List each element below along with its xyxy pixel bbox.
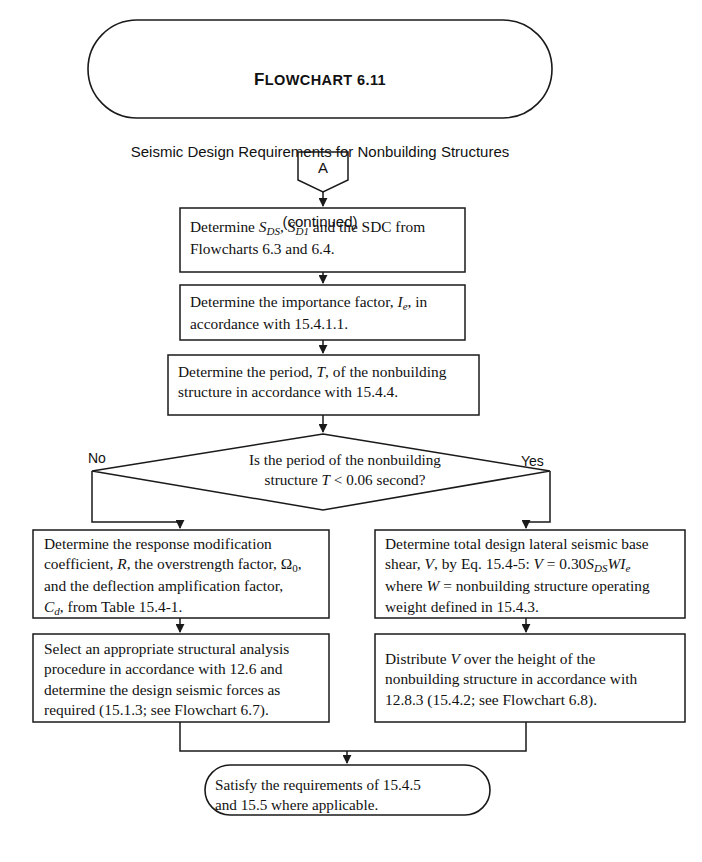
right1-equation-coefficient: = 0.30 — [543, 555, 586, 572]
box1-line2: Flowcharts 6.3 and 6.4. — [190, 240, 334, 257]
box-base-shear-text: Determine total design lateral seismic b… — [385, 534, 679, 617]
left1-line1: Determine the response modification — [44, 535, 272, 552]
box-determine-sds-text: Determine SDS, SD1 and the SDC fromFlowc… — [190, 217, 460, 259]
symbol-s2-subscript: D1 — [295, 225, 309, 237]
decision-line2-tail: < 0.06 second? — [330, 471, 425, 488]
symbol-v: V — [425, 555, 434, 572]
symbol-sds: SDS — [259, 218, 280, 235]
symbol-sd1: SD1 — [288, 218, 309, 235]
edge-yes-branch — [526, 471, 550, 528]
symbol-cd: Cd — [44, 598, 60, 615]
left2-line1: Select an appropriate structural analysi… — [44, 640, 289, 657]
box-importance-factor-text: Determine the importance factor, Ie, ina… — [190, 292, 460, 334]
box-determine-period-text: Determine the period, T, of the nonbuild… — [178, 362, 474, 403]
right1-line3-tail: = nonbuilding structure operating — [439, 577, 649, 594]
edge-left2-merge — [180, 722, 347, 751]
branch-label-no: No — [88, 449, 106, 468]
decision-line2-lead: structure — [265, 471, 322, 488]
flowchart-title-number: 6.11 — [357, 72, 386, 88]
symbol-c: C — [44, 598, 54, 615]
connector-a-label: A — [298, 158, 348, 178]
right2-line3: 12.8.3 (15.4.2; see Flowchart 6.8). — [385, 691, 597, 708]
left1-line2-mid: , the overstrength factor, — [127, 555, 281, 572]
symbol-s: S — [259, 218, 267, 235]
symbol-w: W — [426, 577, 439, 594]
left2-line3: determine the design seismic forces as — [44, 681, 280, 698]
box1-lead: Determine — [190, 218, 259, 235]
flowchart-title-word: LOWCHART — [265, 72, 353, 88]
box3-line2: structure in accordance with 15.4.4. — [178, 383, 398, 400]
box1-tail: and the SDC from — [309, 218, 425, 235]
decision-line1: Is the period of the nonbuilding — [249, 451, 441, 468]
flowchart-page: FLOWCHART 6.11 Seismic Design Requiremen… — [0, 0, 702, 862]
edge-right2-merge — [347, 722, 526, 751]
left1-line2-tail: , — [298, 555, 302, 572]
right2-line1-tail: over the height of the — [460, 650, 595, 667]
box-distribute-v-text: Distribute V over the height of thenonbu… — [385, 649, 679, 710]
symbol-wi: WI — [608, 555, 626, 572]
right1-line3-lead: where — [385, 577, 426, 594]
left1-line2-lead: coefficient, — [44, 555, 117, 572]
left1-line4: , from Table 15.4-1. — [60, 598, 183, 615]
branch-label-yes: Yes — [521, 452, 544, 471]
end-terminator-text: Satisfy the requirements of 15.4.5and 15… — [215, 775, 483, 815]
symbol-r: R — [117, 555, 126, 572]
flowchart-title-initial: F — [254, 70, 265, 89]
end-line2: and 15.5 where applicable. — [215, 796, 378, 813]
symbol-s-subscript: DS — [267, 225, 281, 237]
right1-line2-lead: shear, — [385, 555, 425, 572]
box3-lead: Determine the period, — [178, 363, 316, 380]
symbol-s-eq-subscript: DS — [594, 563, 608, 575]
symbol-t-decision: T — [322, 471, 330, 488]
symbol-wie: WIe — [608, 555, 631, 572]
decision-period-text: Is the period of the nonbuildingstructur… — [200, 450, 490, 490]
right1-line4: weight defined in 15.4.3. — [385, 598, 539, 615]
box2-tail: , in — [408, 293, 428, 310]
symbol-v-equation: V — [534, 555, 543, 572]
symbol-sds-equation: SDS — [586, 555, 607, 572]
symbol-ie: Ie — [398, 293, 408, 310]
right1-line2-mid: , by Eq. 15.4-5: — [434, 555, 534, 572]
box-response-modification-text: Determine the response modificationcoeff… — [44, 534, 322, 619]
symbol-wi-subscript: e — [626, 563, 631, 575]
box2-lead: Determine the importance factor, — [190, 293, 398, 310]
right2-line1-lead: Distribute — [385, 650, 450, 667]
symbol-omega0: Ω0 — [281, 555, 298, 572]
end-line1: Satisfy the requirements of 15.4.5 — [215, 776, 421, 793]
box2-line2: accordance with 15.4.1.1. — [190, 315, 348, 332]
symbol-s-eq: S — [586, 555, 594, 572]
symbol-omega: Ω — [281, 555, 292, 572]
right2-line2: nonbuilding structure in accordance with — [385, 670, 637, 687]
left2-line4: required (15.1.3; see Flowchart 6.7). — [44, 701, 269, 718]
box-select-procedure-text: Select an appropriate structural analysi… — [44, 639, 322, 721]
symbol-t: T — [316, 363, 325, 380]
left2-line2: procedure in accordance with 12.6 and — [44, 660, 282, 677]
box3-tail: , of the nonbuilding — [325, 363, 446, 380]
right1-line1: Determine total design lateral seismic b… — [385, 535, 649, 552]
symbol-v-distribute: V — [450, 650, 459, 667]
left1-line3: and the deflection amplification factor, — [44, 577, 283, 594]
flowchart-title: FLOWCHART 6.11 — [96, 69, 544, 92]
